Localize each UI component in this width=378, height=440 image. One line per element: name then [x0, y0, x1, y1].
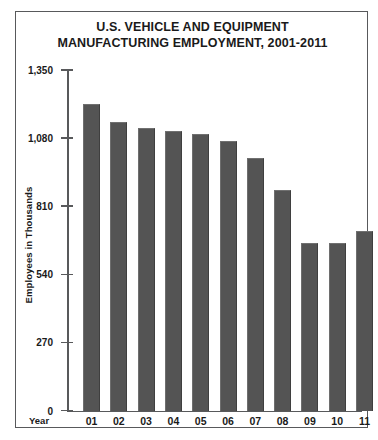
x-axis-tick-label: 10	[322, 415, 352, 427]
x-axis-tick-label: 05	[186, 415, 216, 427]
y-axis-tick-label: 1,350	[28, 65, 53, 76]
y-axis-title-container: Employees in Thousands	[19, 72, 37, 417]
y-axis-tick-label: 270	[36, 337, 53, 348]
bar	[165, 131, 182, 411]
y-axis-line	[67, 70, 69, 412]
x-axis-tick-label: 04	[158, 415, 188, 427]
chart-title: U.S. VEHICLE AND EQUIPMENT MANUFACTURING…	[16, 19, 369, 51]
y-axis-title: Employees in Thousands	[23, 186, 34, 303]
y-axis-tick: 270	[61, 342, 73, 344]
chart-figure: U.S. VEHICLE AND EQUIPMENT MANUFACTURING…	[15, 11, 368, 428]
bar	[301, 243, 318, 411]
x-axis-tick-label: 07	[240, 415, 270, 427]
x-axis-title: Year	[29, 415, 49, 426]
bar	[274, 190, 291, 411]
x-axis-tick-label: 11	[350, 415, 378, 427]
y-axis-tick-label: 810	[36, 201, 53, 212]
x-axis-tick-label: 06	[213, 415, 243, 427]
x-axis-tick-label: 02	[104, 415, 134, 427]
y-axis-tick: 810	[61, 205, 73, 207]
bar	[329, 243, 346, 411]
bar	[83, 104, 100, 410]
y-axis-tick: 1,350	[61, 69, 73, 71]
bar	[247, 158, 264, 410]
bar	[356, 231, 373, 410]
bar	[110, 122, 127, 411]
x-axis-tick-label: 01	[77, 415, 107, 427]
plot-area: 02705408101,0801,350 0102030405060708091…	[67, 70, 362, 412]
x-axis-tick-label: 08	[268, 415, 298, 427]
chart-title-line-2: MANUFACTURING EMPLOYMENT, 2001-2011	[16, 35, 369, 51]
bar	[138, 128, 155, 410]
chart-title-line-1: U.S. VEHICLE AND EQUIPMENT	[16, 19, 369, 35]
y-axis-tick-label: 1,080	[28, 133, 53, 144]
x-axis-tick-label: 09	[295, 415, 325, 427]
bar	[220, 141, 237, 411]
x-axis-tick-label: 03	[131, 415, 161, 427]
y-axis-tick: 540	[61, 274, 73, 276]
bar	[192, 134, 209, 410]
x-axis-line	[67, 411, 362, 413]
y-axis-tick: 1,080	[61, 137, 73, 139]
y-axis-tick-label: 540	[36, 269, 53, 280]
y-axis-tick: 0	[61, 410, 73, 412]
